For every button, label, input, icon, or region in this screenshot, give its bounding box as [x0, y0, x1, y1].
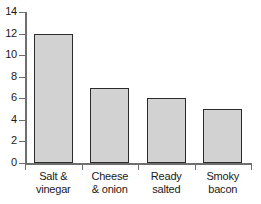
bar — [203, 109, 242, 163]
y-axis-tick — [19, 98, 25, 99]
y-axis-tick — [19, 120, 25, 121]
x-axis-category-label: Cheese & onion — [82, 170, 139, 196]
x-axis-tick — [251, 163, 252, 170]
x-axis-tick — [138, 163, 139, 170]
x-axis-category-label: Salt & vinegar — [25, 170, 82, 196]
y-axis-tick-label: 8 — [0, 71, 17, 82]
y-axis-line — [25, 12, 27, 164]
y-axis-tick — [19, 141, 25, 142]
x-axis-tick — [82, 163, 83, 170]
y-axis-tick-label: 2 — [0, 135, 17, 146]
y-axis-tick-label: 12 — [0, 28, 17, 39]
y-axis-tick — [19, 12, 25, 13]
x-axis-category-label: Ready salted — [138, 170, 195, 196]
y-axis-tick — [19, 55, 25, 56]
y-axis-tick — [19, 77, 25, 78]
bar-chart: 02468101214 Salt & vinegarCheese & onion… — [0, 0, 261, 204]
y-axis-tick — [19, 34, 25, 35]
y-axis-tick-label: 4 — [0, 114, 17, 125]
y-axis-tick-label: 14 — [0, 6, 17, 17]
bar — [34, 34, 73, 163]
x-axis-tick — [25, 163, 26, 170]
x-axis-tick — [195, 163, 196, 170]
y-axis-tick-label: 0 — [0, 157, 17, 168]
y-axis-tick-label: 6 — [0, 92, 17, 103]
bar — [147, 98, 186, 163]
x-axis-category-label: Smoky bacon — [195, 170, 252, 196]
bar — [90, 88, 129, 164]
y-axis-tick-label: 10 — [0, 49, 17, 60]
